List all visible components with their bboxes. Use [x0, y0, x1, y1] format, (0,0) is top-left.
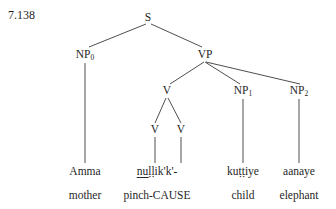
gloss-pinch-cause: pinch-CAUSE [123, 190, 190, 202]
gloss-elephant: elephant [280, 190, 319, 202]
tree-node-np1-label: NP [234, 84, 249, 96]
terminal-word-kuttiye-text: kuṭṭiye [227, 165, 259, 177]
tree-node-np2: NP2 [290, 85, 308, 97]
gloss-mother: mother [69, 190, 102, 202]
tree-node-s: S [145, 12, 151, 24]
gloss-mother-text: mother [69, 189, 102, 201]
terminal-word-amma: Amma [69, 166, 100, 178]
tree-node-np1-subscript: 1 [248, 89, 252, 98]
tree-node-v2-label: V [177, 123, 185, 135]
tree-node-np2-label: NP [290, 84, 305, 96]
tree-node-v1-label: V [151, 123, 159, 135]
terminal-word-nullikk-rest: ḷḷik'k'- [148, 165, 177, 177]
tree-node-np0-subscript: 0 [90, 53, 94, 62]
tree-node-np0: NP0 [76, 49, 94, 61]
gloss-child: child [232, 190, 255, 202]
tree-node-np0-label: NP [76, 48, 91, 60]
terminal-word-amma-text: Amma [69, 165, 100, 177]
tree-branch-lines [0, 0, 336, 209]
terminal-word-aanaye-text: aanaye [283, 165, 315, 177]
tree-node-vp-label: VP [198, 48, 213, 60]
tree-node-v2: V [177, 124, 185, 136]
edge-s-vp [151, 24, 202, 47]
syntax-tree-figure: 7.138 [0, 0, 336, 209]
gloss-pinch-cause-text: pinch-CAUSE [123, 189, 190, 201]
tree-node-np2-subscript: 2 [304, 89, 308, 98]
tree-node-s-label: S [145, 11, 151, 23]
tree-node-v: V [163, 85, 171, 97]
edge-vp-np2 [206, 62, 300, 84]
edge-s-np0 [89, 24, 146, 47]
terminal-word-nullikk: nuḷḷik'k'- [137, 166, 178, 178]
edge-v-v2 [168, 98, 181, 123]
tree-node-v1: V [151, 124, 159, 136]
gloss-elephant-text: elephant [280, 189, 319, 201]
terminal-word-kuttiye: kuṭṭiye [227, 166, 259, 178]
tree-node-v-label: V [163, 84, 171, 96]
tree-node-vp: VP [198, 49, 213, 61]
edge-vp-np1 [205, 62, 240, 84]
edge-vp-v [170, 62, 204, 84]
tree-node-np1: NP1 [234, 85, 252, 97]
terminal-word-aanaye: aanaye [283, 166, 315, 178]
edge-v-v1 [155, 98, 166, 123]
gloss-child-text: child [232, 189, 255, 201]
terminal-word-nullikk-underlined-part: nu [137, 165, 149, 178]
